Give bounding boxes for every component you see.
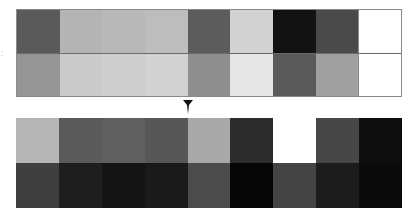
tile-r1-c3 bbox=[145, 163, 188, 208]
tile-r1-c5 bbox=[230, 53, 273, 96]
tile-r1-c4 bbox=[188, 163, 231, 208]
tile-r0-c0 bbox=[17, 10, 60, 53]
tile-r1-c2 bbox=[102, 163, 145, 208]
tile-r1-c1 bbox=[59, 163, 102, 208]
tile-r0-c2 bbox=[102, 118, 145, 163]
tile-r1-c0 bbox=[16, 163, 59, 208]
tile-r1-c5 bbox=[230, 163, 273, 208]
diagram-canvas: : bbox=[0, 0, 419, 219]
tile-r0-c2 bbox=[102, 10, 145, 53]
tile-r1-c7 bbox=[316, 163, 359, 208]
tile-r0-c7 bbox=[316, 118, 359, 163]
tile-r1-c8 bbox=[358, 53, 401, 96]
tile-r1-c8 bbox=[359, 163, 402, 208]
tile-r1-c1 bbox=[60, 53, 103, 96]
tile-r0-c8 bbox=[359, 118, 402, 163]
tile-r0-c1 bbox=[60, 10, 103, 53]
side-mark: : bbox=[1, 50, 7, 58]
tile-r1-c4 bbox=[188, 53, 231, 96]
tile-r0-c6 bbox=[273, 118, 316, 163]
tile-r0-c0 bbox=[16, 118, 59, 163]
tile-r1-c6 bbox=[273, 163, 316, 208]
tile-r1-c3 bbox=[145, 53, 188, 96]
tile-r0-c6 bbox=[273, 10, 316, 53]
tile-r0-c3 bbox=[145, 118, 188, 163]
bottom-tile-grid bbox=[16, 118, 402, 208]
tile-r0-c3 bbox=[145, 10, 188, 53]
tile-r1-c6 bbox=[273, 53, 316, 96]
arrow-down-icon bbox=[183, 100, 193, 114]
tile-r0-c5 bbox=[230, 10, 273, 53]
tile-r0-c8 bbox=[358, 10, 401, 53]
tile-r0-c1 bbox=[59, 118, 102, 163]
tile-r0-c4 bbox=[188, 118, 231, 163]
tile-r1-c7 bbox=[316, 53, 359, 96]
top-tile-grid bbox=[16, 9, 402, 97]
tile-r0-c7 bbox=[316, 10, 359, 53]
tile-r0-c5 bbox=[230, 118, 273, 163]
tile-r1-c2 bbox=[102, 53, 145, 96]
tile-r0-c4 bbox=[188, 10, 231, 53]
tile-r1-c0 bbox=[17, 53, 60, 96]
